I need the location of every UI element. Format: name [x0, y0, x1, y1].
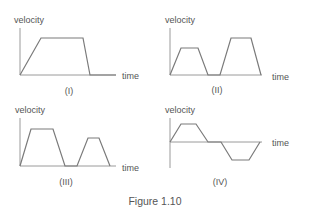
- panel-ii: velocity time (II): [165, 15, 289, 95]
- x-axis-label: time: [122, 163, 139, 173]
- panel-label: (IV): [213, 177, 228, 187]
- velocity-curve: [170, 38, 261, 75]
- y-axis-label: velocity: [165, 15, 196, 25]
- y-axis-label: velocity: [14, 15, 45, 25]
- velocity-time-figure: velocity time (I) velocity time (II) vel…: [0, 0, 310, 218]
- panel-label: (III): [59, 177, 73, 187]
- figure-caption: Figure 1.10: [128, 195, 181, 207]
- panel-iv: velocity time (IV): [165, 105, 289, 187]
- panel-iii: velocity time (III): [15, 105, 139, 187]
- y-axis-label: velocity: [15, 105, 46, 115]
- panel-label: (II): [212, 85, 223, 95]
- velocity-curve: [20, 129, 110, 166]
- x-axis-label: time: [272, 72, 289, 82]
- velocity-curve: [20, 38, 116, 75]
- panel-label: (I): [65, 86, 74, 96]
- panel-i: velocity time (I): [14, 15, 139, 96]
- x-axis-label: time: [122, 71, 139, 81]
- x-axis-label: time: [272, 138, 289, 148]
- y-axis-label: velocity: [165, 105, 196, 115]
